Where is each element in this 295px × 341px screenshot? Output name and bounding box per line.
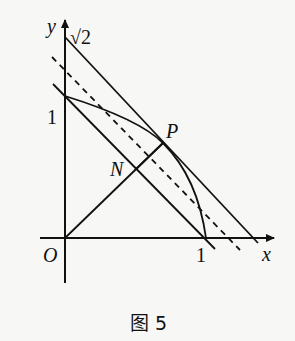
line-x-plus-y-sqrt2 (65, 37, 258, 243)
x-axis-label: x (261, 243, 271, 265)
diagram-svg: y x O 1 1 √2 P N 图 5 (0, 0, 295, 341)
diagram-figure: y x O 1 1 √2 P N 图 5 (0, 0, 295, 341)
origin-label: O (43, 244, 57, 266)
y-axis-label: y (45, 15, 56, 38)
figure-caption: 图 5 (130, 312, 167, 334)
y-tick-one: 1 (47, 106, 57, 128)
point-P-label: P (165, 120, 178, 142)
x-tick-one: 1 (196, 244, 206, 266)
line-x-plus-y-1 (53, 84, 215, 249)
y-tick-sqrt2: √2 (70, 26, 91, 48)
point-N-label: N (109, 158, 125, 180)
dashed-line (52, 57, 240, 250)
